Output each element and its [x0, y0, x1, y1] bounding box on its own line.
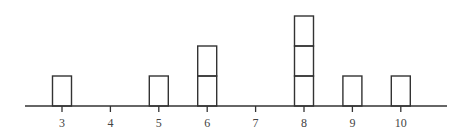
dot-plot: 345678910: [0, 0, 467, 132]
data-box: [295, 16, 314, 46]
tick-label: 4: [107, 116, 113, 130]
data-box: [53, 76, 72, 106]
data-box: [198, 76, 217, 106]
tick-label: 6: [204, 116, 210, 130]
data-box: [343, 76, 362, 106]
tick-label: 3: [59, 116, 65, 130]
x-axis-ticks: 345678910: [59, 106, 407, 130]
tick-label: 7: [253, 116, 259, 130]
tick-label: 9: [349, 116, 355, 130]
stacked-boxes: [53, 16, 411, 106]
tick-label: 5: [156, 116, 162, 130]
tick-label: 10: [395, 116, 407, 130]
tick-label: 8: [301, 116, 307, 130]
data-box: [149, 76, 168, 106]
data-box: [295, 46, 314, 76]
data-box: [198, 46, 217, 76]
data-box: [391, 76, 410, 106]
data-box: [295, 76, 314, 106]
